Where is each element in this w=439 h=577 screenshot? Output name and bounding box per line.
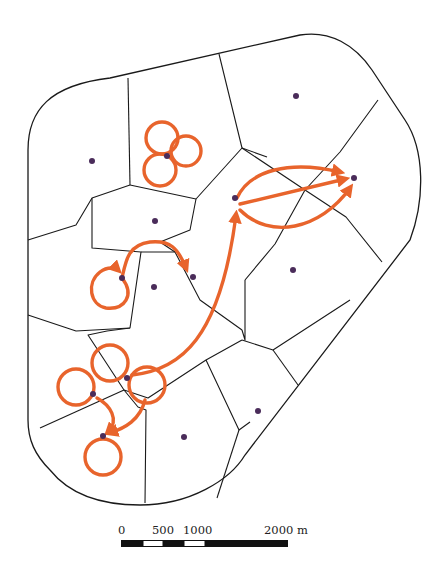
- site-dot: [90, 391, 96, 397]
- scale-label-1000: 1000: [183, 523, 212, 537]
- voronoi-territory-map: 0 500 1000 2000 m: [0, 0, 439, 577]
- site-dot: [290, 267, 296, 273]
- site-dot: [152, 218, 158, 224]
- site-dot: [190, 274, 196, 280]
- site-dot: [293, 93, 299, 99]
- scale-label-500: 500: [152, 523, 174, 537]
- voronoi-cell-edges: [28, 54, 382, 503]
- site-dot: [232, 195, 238, 201]
- scale-bar: 0 500 1000 2000 m: [118, 523, 308, 547]
- site-dot: [89, 158, 95, 164]
- site-dot: [124, 375, 130, 381]
- scale-label-0: 0: [118, 523, 125, 537]
- site-dot: [255, 408, 261, 414]
- site-dot: [119, 275, 125, 281]
- movement-tracks: [58, 122, 350, 475]
- scale-label-2000m: 2000 m: [264, 523, 308, 537]
- study-area-boundary: [28, 34, 421, 505]
- site-dot: [351, 175, 357, 181]
- site-dot: [100, 433, 106, 439]
- site-dot: [164, 153, 170, 159]
- site-dot: [181, 434, 187, 440]
- site-dot: [151, 284, 157, 290]
